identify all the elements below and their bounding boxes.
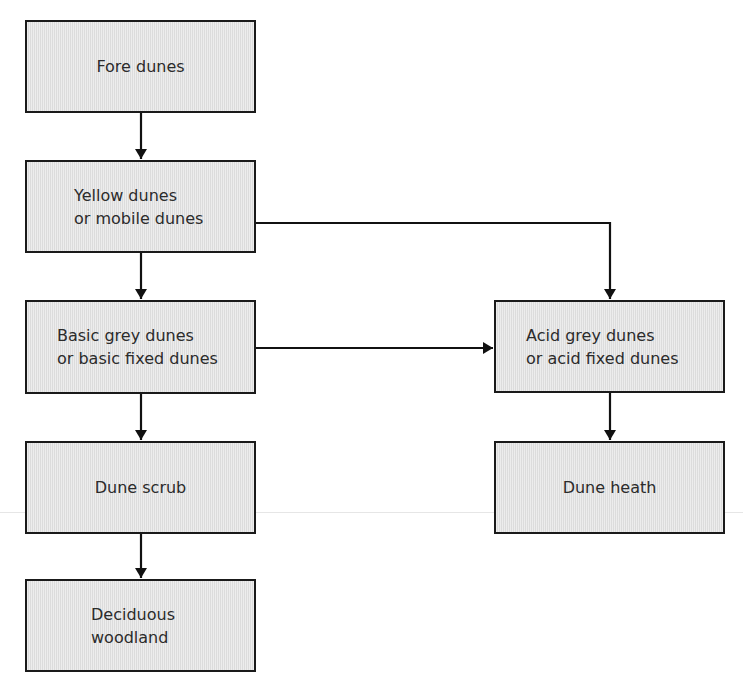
node-deciduous-woodland: Deciduous woodland: [25, 579, 256, 672]
node-dune-heath: Dune heath: [494, 441, 725, 534]
node-label: Basic grey dunes or basic fixed dunes: [27, 324, 218, 370]
node-label: Acid grey dunes or acid fixed dunes: [496, 324, 679, 370]
node-label: Dune heath: [563, 476, 657, 499]
node-label: Dune scrub: [95, 476, 187, 499]
node-label: Deciduous woodland: [27, 603, 175, 649]
node-label: Yellow dunes or mobile dunes: [27, 184, 203, 230]
node-fore-dunes: Fore dunes: [25, 20, 256, 113]
node-basic-grey-dunes: Basic grey dunes or basic fixed dunes: [25, 300, 256, 394]
node-acid-grey-dunes: Acid grey dunes or acid fixed dunes: [494, 300, 725, 393]
node-label: Fore dunes: [96, 55, 184, 78]
node-dune-scrub: Dune scrub: [25, 441, 256, 534]
node-yellow-dunes: Yellow dunes or mobile dunes: [25, 160, 256, 253]
arrow-yellow-to-acid-grey: [255, 223, 610, 299]
